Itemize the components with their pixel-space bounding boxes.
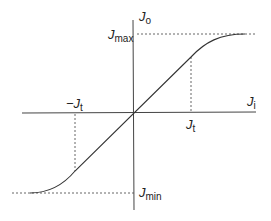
transfer-curve-diagram [0, 0, 271, 221]
jmin-label: Jmin [139, 186, 162, 202]
jmin-label-sub: min [146, 191, 162, 202]
x-axis [22, 112, 256, 113]
transfer-curve [30, 34, 245, 193]
neg-jt-label-main: −J [66, 96, 80, 111]
jmax-label: Jmax [108, 28, 133, 44]
x-axis-label-sub: i [254, 100, 256, 111]
jmax-label-sub: max [115, 33, 134, 44]
x-axis-label: Ji [247, 95, 256, 111]
neg-jt-label: −Jt [66, 97, 83, 113]
y-axis-label: Jo [139, 10, 151, 26]
neg-jt-label-sub: t [80, 102, 83, 113]
jt-label: Jt [186, 118, 195, 134]
y-axis-label-sub: o [146, 15, 152, 26]
y-axis [133, 20, 134, 210]
jt-label-sub: t [193, 123, 196, 134]
